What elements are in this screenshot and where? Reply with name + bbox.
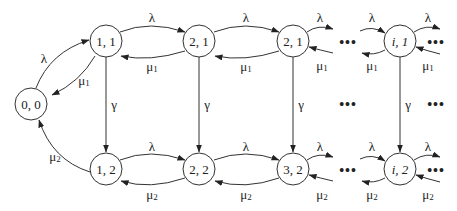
edge-label-lambda: λ	[369, 139, 376, 154]
state-node-1-2: 1, 2	[90, 153, 122, 185]
edge-label-lambda: λ	[149, 10, 156, 25]
edge-label-mu2: μ2	[366, 187, 377, 203]
edge-label-lambda: λ	[425, 10, 432, 25]
edge-label-mu2: μ2	[146, 187, 157, 203]
svg-text:0, 0: 0, 0	[21, 97, 41, 112]
edge-in-i2	[360, 156, 385, 161]
edge-i1-out	[414, 27, 440, 32]
edge-i2-out	[414, 155, 440, 160]
edge-out-i2	[362, 178, 385, 182]
edge-label-mu2: μ2	[422, 187, 433, 203]
edge-label-mu1: μ1	[316, 58, 327, 74]
edge-label-mu1: μ1	[366, 58, 377, 74]
edge-label-mu1: μ1	[240, 59, 251, 75]
state-node-0-0: 0, 0	[15, 88, 47, 120]
edge-32-in	[309, 175, 333, 181]
edge-label-gamma: γ	[404, 97, 411, 112]
edge-label-lambda: λ	[149, 139, 156, 154]
ellipsis: •••	[339, 97, 357, 112]
state-node-2-1: 2, 1	[183, 25, 215, 57]
svg-text:1, 1: 1, 1	[96, 34, 116, 49]
state-node-3-1: 2, 1	[277, 25, 309, 57]
edge-label-lambda: λ	[369, 10, 376, 25]
state-node-i-2: i, 2	[384, 153, 416, 185]
edge-label-mu2: μ2	[316, 187, 327, 203]
edge-label-lambda: λ	[317, 139, 324, 154]
edge-label-lambda: λ	[317, 10, 324, 25]
state-node-3-2: 3, 2	[277, 153, 309, 185]
edge-label-lambda: λ	[41, 51, 48, 66]
edge-32-out	[307, 155, 333, 160]
edge-label-lambda: λ	[425, 139, 432, 154]
edge-12-to-00	[39, 120, 90, 172]
edge-label-mu2: μ2	[49, 149, 60, 165]
edge-out-i1	[362, 50, 385, 54]
svg-text:2, 1: 2, 1	[283, 34, 303, 49]
edge-31-out	[307, 27, 333, 32]
ellipsis: •••	[427, 163, 445, 178]
edge-label-gamma: γ	[203, 97, 210, 112]
edge-22-to-32	[214, 154, 279, 160]
svg-text:i, 1: i, 1	[392, 34, 409, 49]
edge-label-lambda: λ	[243, 139, 250, 154]
markov-chain-diagram: λ μ1 μ2 λ μ1 λ μ1 λ μ1 ••• λ μ1 λ μ1 •••…	[0, 0, 457, 211]
ellipsis: •••	[427, 35, 445, 50]
state-node-2-2: 2, 2	[183, 153, 215, 185]
svg-text:3, 2: 3, 2	[283, 162, 303, 177]
svg-text:2, 2: 2, 2	[189, 162, 209, 177]
edge-label-mu1: μ1	[146, 59, 157, 75]
state-node-i-1: i, 1	[384, 25, 416, 57]
edge-21-to-31	[214, 26, 279, 32]
edge-31-in	[309, 47, 333, 53]
ellipsis: •••	[339, 163, 357, 178]
edge-label-mu1: μ1	[422, 58, 433, 74]
ellipsis: •••	[339, 35, 357, 50]
svg-text:i, 2: i, 2	[392, 162, 409, 177]
svg-text:2, 1: 2, 1	[189, 34, 209, 49]
edge-11-to-21	[120, 26, 185, 32]
svg-text:1, 2: 1, 2	[96, 162, 116, 177]
edge-22-to-12	[121, 178, 185, 185]
edge-31-to-21	[215, 51, 279, 58]
edge-in-i1	[360, 28, 385, 33]
edge-32-to-22	[215, 178, 279, 185]
edge-label-gamma: γ	[110, 97, 117, 112]
state-node-1-1: 1, 1	[90, 25, 122, 57]
edge-label-mu2: μ2	[240, 187, 251, 203]
edge-label-gamma: γ	[297, 97, 304, 112]
edge-12-to-22	[120, 154, 185, 160]
edge-21-to-11	[121, 51, 185, 58]
edge-label-mu1: μ1	[78, 73, 89, 89]
ellipsis: •••	[427, 97, 445, 112]
edge-11-to-00	[52, 56, 95, 95]
edge-label-lambda: λ	[243, 10, 250, 25]
